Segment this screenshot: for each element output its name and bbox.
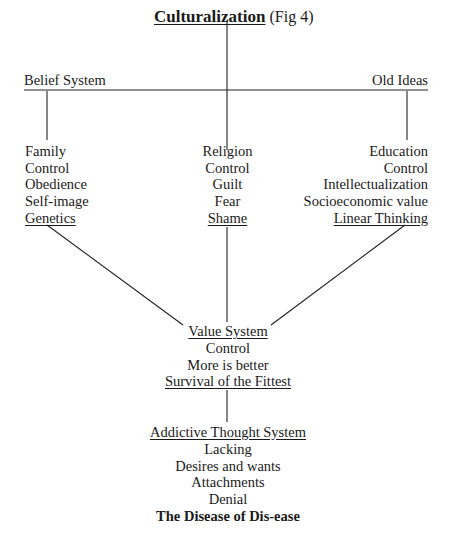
addictive-heading: Addictive Thought System <box>100 424 356 441</box>
religion-item: Control <box>180 160 275 177</box>
old-ideas-label: Old Ideas <box>372 72 428 89</box>
family-item: Family <box>25 143 89 160</box>
title-suffix: (Fig 4) <box>265 8 313 25</box>
education-item: Intellectualization <box>304 176 428 193</box>
value-system-footer: Survival of the Fittest <box>100 373 356 390</box>
diagram-title: Culturalization (Fig 4) <box>154 8 313 26</box>
education-column: Education Control Intellectualization So… <box>304 143 428 227</box>
addictive-item: Attachments <box>100 474 356 491</box>
education-item: Linear Thinking <box>304 210 428 227</box>
education-item: Education <box>304 143 428 160</box>
religion-item: Guilt <box>180 176 275 193</box>
family-item: Obedience <box>25 176 89 193</box>
addictive-item: Desires and wants <box>100 458 356 475</box>
religion-item: Religion <box>180 143 275 160</box>
value-system-item: More is better <box>100 357 356 374</box>
belief-system-label: Belief System <box>24 72 106 89</box>
family-column: Family Control Obedience Self-image Gene… <box>25 143 89 227</box>
religion-column: Religion Control Guilt Fear Shame <box>180 143 275 227</box>
family-item: Genetics <box>25 210 89 227</box>
value-system-block: Value System Control More is better Surv… <box>100 323 356 390</box>
title-main: Culturalization <box>154 7 265 26</box>
addictive-item: Lacking <box>100 441 356 458</box>
value-system-item: Control <box>100 340 356 357</box>
value-system-heading: Value System <box>100 323 356 340</box>
family-item: Self-image <box>25 193 89 210</box>
education-item: Socioeconomic value <box>304 193 428 210</box>
religion-item: Shame <box>180 210 275 227</box>
family-item: Control <box>25 160 89 177</box>
addictive-item: Denial <box>100 491 356 508</box>
religion-item: Fear <box>180 193 275 210</box>
addictive-thought-block: Addictive Thought System Lacking Desires… <box>100 424 356 525</box>
education-item: Control <box>304 160 428 177</box>
addictive-conclusion: The Disease of Dis-ease <box>100 508 356 525</box>
